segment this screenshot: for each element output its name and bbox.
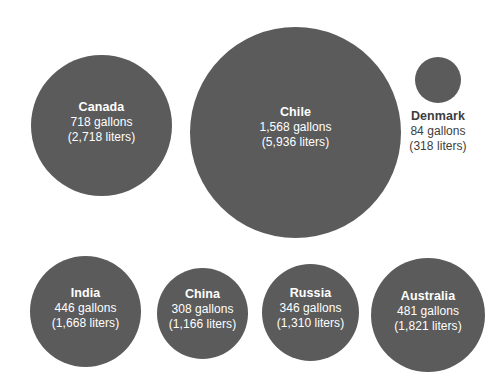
bubble-circle-china: [157, 268, 248, 359]
bubble-circle-denmark: [415, 57, 461, 103]
bubble-australia[interactable]: Australia 481 gallons (1,821 liters): [371, 258, 485, 372]
bubble-india[interactable]: India 446 gallons (1,668 liters): [30, 256, 141, 367]
bubble-canada[interactable]: Canada 718 gallons (2,718 liters): [31, 55, 172, 196]
bubble-chart: Canada 718 gallons (2,718 liters) Chile …: [0, 0, 503, 387]
bubble-circle-australia: [371, 258, 485, 372]
bubble-chile[interactable]: Chile 1,568 gallons (5,936 liters): [190, 27, 401, 238]
bubble-circle-india: [30, 256, 141, 367]
bubble-russia[interactable]: Russia 346 gallons (1,310 liters): [262, 264, 359, 361]
bubble-circle-chile: [190, 27, 401, 238]
bubble-china[interactable]: China 308 gallons (1,166 liters): [157, 268, 248, 359]
bubble-circle-russia: [262, 264, 359, 361]
bubble-label-denmark: Denmark 84 gallons (318 liters): [388, 109, 488, 154]
bubble-circle-canada: [31, 55, 172, 196]
bubble-liters-denmark: (318 liters): [388, 139, 488, 154]
bubble-gallons-denmark: 84 gallons: [388, 124, 488, 139]
bubble-name-denmark: Denmark: [388, 109, 488, 124]
bubble-denmark[interactable]: Denmark 84 gallons (318 liters): [415, 57, 461, 103]
